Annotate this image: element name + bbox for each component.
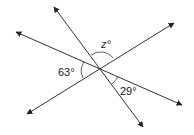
arc-29	[112, 76, 118, 84]
shallow-falling-line	[16, 32, 182, 105]
angle-diagram: z° 63° 29°	[0, 0, 194, 135]
label-z: z°	[100, 38, 112, 50]
arc-63	[81, 62, 84, 78]
label-29: 29°	[120, 85, 137, 97]
label-63: 63°	[58, 66, 75, 78]
arc-z	[91, 52, 113, 58]
rising-line	[27, 23, 174, 114]
